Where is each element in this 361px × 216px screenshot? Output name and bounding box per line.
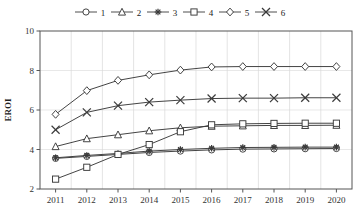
data-point-5-2020 bbox=[333, 63, 340, 71]
circle-marker bbox=[83, 9, 89, 15]
data-point-4-2019 bbox=[302, 120, 308, 126]
data-point-6-2011 bbox=[52, 126, 60, 134]
legend-label-1: 1 bbox=[101, 8, 106, 18]
data-point-4-2018 bbox=[271, 120, 277, 126]
square-marker bbox=[271, 120, 277, 126]
data-point-5-2011 bbox=[52, 110, 59, 118]
diamond-marker bbox=[208, 63, 215, 71]
legend-label-2: 2 bbox=[137, 8, 142, 18]
data-point-5-2016 bbox=[208, 63, 215, 71]
diamond-marker bbox=[83, 87, 90, 95]
square-marker bbox=[84, 164, 90, 170]
data-point-5-2017 bbox=[239, 63, 246, 71]
x-axis-tick-label: 2018 bbox=[265, 195, 284, 205]
x-axis-tick-label: 2011 bbox=[47, 195, 65, 205]
x-axis-tick-label: 2014 bbox=[140, 195, 159, 205]
square-marker bbox=[209, 122, 215, 128]
chart-legend: 123456 bbox=[75, 8, 286, 18]
chart-canvas: 123456246810EROI201120122013201420152016… bbox=[0, 0, 361, 216]
y-axis-title: EROI bbox=[3, 98, 13, 122]
data-point-3-2011 bbox=[52, 154, 59, 161]
data-point-3-2017 bbox=[240, 144, 247, 151]
diamond-marker bbox=[115, 76, 122, 84]
diamond-marker bbox=[302, 63, 309, 71]
data-point-5-2013 bbox=[115, 76, 122, 84]
diamond-marker bbox=[227, 8, 234, 16]
square-marker bbox=[177, 129, 183, 135]
data-point-5-2019 bbox=[302, 63, 309, 71]
x-axis-tick-label: 2019 bbox=[296, 195, 315, 205]
diamond-marker bbox=[146, 71, 153, 79]
data-point-4-2012 bbox=[84, 164, 90, 170]
data-point-3-2015 bbox=[177, 146, 184, 153]
legend-marker-circle bbox=[83, 9, 89, 15]
x-axis-tick-label: 2020 bbox=[327, 195, 346, 205]
data-point-3-2019 bbox=[302, 144, 309, 151]
x-axis-tick-label: 2015 bbox=[171, 195, 190, 205]
y-axis-tick-label: 2 bbox=[30, 184, 35, 194]
data-point-3-2018 bbox=[271, 144, 278, 151]
square-marker bbox=[240, 121, 246, 127]
y-axis: 246810 bbox=[25, 26, 40, 194]
data-point-4-2014 bbox=[146, 141, 152, 147]
legend-label-4: 4 bbox=[209, 8, 214, 18]
square-marker bbox=[302, 120, 308, 126]
x-axis-tick-label: 2012 bbox=[78, 195, 96, 205]
legend-marker-square bbox=[191, 9, 197, 15]
diamond-marker bbox=[177, 66, 184, 74]
legend-marker-diamond bbox=[227, 8, 234, 16]
square-marker bbox=[191, 9, 197, 15]
data-point-4-2016 bbox=[209, 122, 215, 128]
diamond-marker bbox=[239, 63, 246, 71]
data-point-4-2017 bbox=[240, 121, 246, 127]
square-marker bbox=[53, 176, 59, 182]
x-axis-tick-label: 2017 bbox=[234, 195, 253, 205]
y-axis-tick-label: 10 bbox=[25, 26, 35, 36]
data-point-5-2014 bbox=[146, 71, 153, 79]
diamond-marker bbox=[52, 110, 59, 118]
eroi-line-chart: 123456246810EROI201120122013201420152016… bbox=[0, 0, 361, 216]
y-axis-tick-label: 6 bbox=[30, 105, 35, 115]
data-point-4-2013 bbox=[115, 151, 121, 157]
data-point-5-2018 bbox=[271, 63, 278, 71]
data-point-3-2012 bbox=[84, 152, 91, 159]
diamond-marker bbox=[333, 63, 340, 71]
legend-marker-asterisk bbox=[155, 9, 162, 16]
legend-label-3: 3 bbox=[173, 8, 178, 18]
data-point-5-2012 bbox=[83, 87, 90, 95]
data-point-6-2012 bbox=[83, 108, 91, 116]
legend-label-5: 5 bbox=[245, 8, 250, 18]
square-marker bbox=[146, 141, 152, 147]
data-point-3-2020 bbox=[333, 144, 340, 151]
legend-label-6: 6 bbox=[281, 8, 286, 18]
square-marker bbox=[115, 151, 121, 157]
diamond-marker bbox=[271, 63, 278, 71]
y-axis-tick-label: 4 bbox=[30, 145, 35, 155]
y-axis-tick-label: 8 bbox=[30, 66, 35, 76]
data-point-3-2016 bbox=[208, 145, 215, 152]
data-point-5-2015 bbox=[177, 66, 184, 74]
x-axis-tick-label: 2013 bbox=[109, 195, 128, 205]
x-axis: 2011201220132014201520162017201820192020 bbox=[47, 189, 346, 205]
square-marker bbox=[333, 120, 339, 126]
data-point-3-2014 bbox=[146, 148, 153, 155]
data-point-4-2020 bbox=[333, 120, 339, 126]
data-point-4-2015 bbox=[177, 129, 183, 135]
x-axis-tick-label: 2016 bbox=[203, 195, 222, 205]
data-point-4-2011 bbox=[53, 176, 59, 182]
